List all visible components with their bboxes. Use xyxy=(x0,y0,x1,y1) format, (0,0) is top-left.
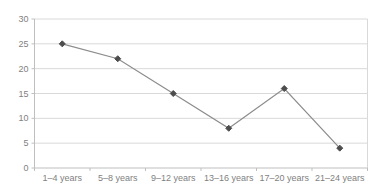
data-point-marker xyxy=(170,91,176,97)
chart-canvas: 051015202530 1–4 years5–8 years9–12 year… xyxy=(0,0,382,192)
y-tick-label: 20 xyxy=(18,64,28,74)
series-line xyxy=(62,44,340,148)
x-tick-label: 1–4 years xyxy=(42,173,82,183)
data-series-line xyxy=(62,44,340,148)
x-tick-label: 5–8 years xyxy=(98,173,138,183)
data-point-marker xyxy=(59,41,65,47)
x-axis-labels: 1–4 years5–8 years9–12 years13–16 years1… xyxy=(42,173,365,183)
data-point-marker xyxy=(115,56,121,62)
data-markers xyxy=(59,41,343,151)
y-tick-label: 25 xyxy=(18,39,28,49)
y-tick-label: 5 xyxy=(23,138,28,148)
x-tick-label: 13–16 years xyxy=(204,173,254,183)
y-tick-label: 10 xyxy=(18,113,28,123)
x-tick-label: 9–12 years xyxy=(151,173,196,183)
y-tick-label: 0 xyxy=(23,163,28,173)
tick-marks xyxy=(32,19,368,171)
y-axis-labels: 051015202530 xyxy=(18,14,28,173)
line-chart: 051015202530 1–4 years5–8 years9–12 year… xyxy=(0,0,382,192)
x-tick-label: 21–24 years xyxy=(315,173,365,183)
x-tick-label: 17–20 years xyxy=(259,173,309,183)
y-tick-label: 15 xyxy=(18,89,28,99)
y-tick-label: 30 xyxy=(18,14,28,24)
